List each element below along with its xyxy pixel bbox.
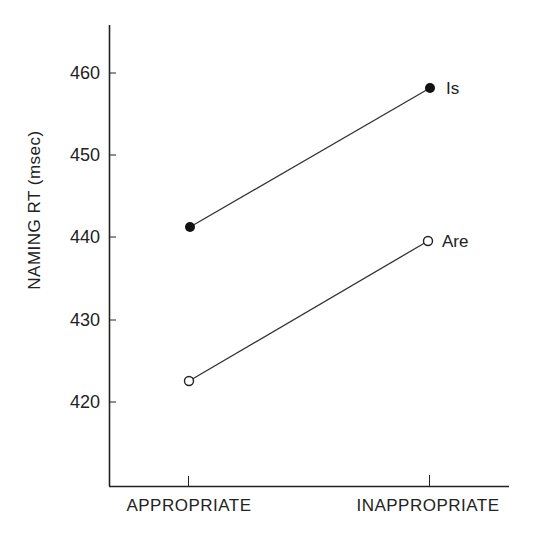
y-tick-label-440: 440: [70, 227, 100, 247]
data-point-are-inappropriate: [424, 237, 433, 246]
x-ticks: [189, 475, 430, 486]
data-point-are-appropriate: [185, 377, 194, 386]
y-tick-label-460: 460: [70, 63, 100, 83]
y-tick-label-430: 430: [70, 310, 100, 330]
series-are: Are: [185, 232, 469, 386]
line-chart: 460 450 440 430 420 NAMING RT (msec) APP…: [0, 0, 539, 540]
data-point-is-appropriate: [185, 222, 195, 232]
x-category-inappropriate: INAPPROPRIATE: [356, 496, 499, 515]
series-label-are: Are: [442, 232, 468, 251]
series-is: Is: [185, 79, 459, 232]
data-point-is-inappropriate: [425, 83, 435, 93]
y-axis-label: NAMING RT (msec): [25, 130, 44, 289]
x-category-appropriate: APPROPRIATE: [126, 496, 251, 515]
series-label-is: Is: [446, 79, 459, 98]
y-tick-label-450: 450: [70, 145, 100, 165]
y-tick-label-420: 420: [70, 392, 100, 412]
